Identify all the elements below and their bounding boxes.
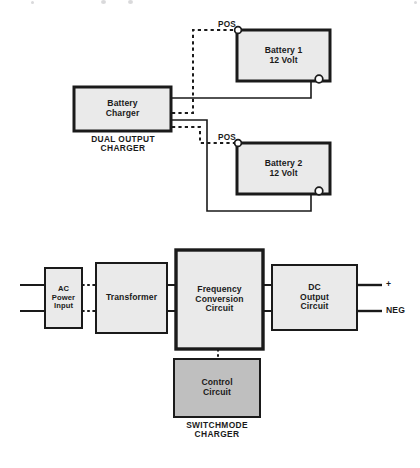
control-circuit-box [174,359,260,417]
frequency-conversion-circuit-box [176,250,263,349]
battery-1-negative-terminal [315,75,323,83]
transformer-box [96,263,167,333]
battery-1-box [237,30,330,81]
battery-2-negative-terminal [315,187,323,195]
diagram-canvas [0,0,420,468]
battery-2-positive-terminal [235,140,242,147]
diagram-page: Battery Charger DUAL OUTPUT CHARGER Batt… [0,0,420,468]
battery-1-positive-terminal [235,27,242,34]
wire-dashed-charger-to-battery1-pos [172,30,236,113]
ac-power-input-box [45,268,82,328]
battery-charger-box [74,87,171,131]
wire-dashed-charger-to-battery2-pos [172,127,236,143]
battery-2-box [237,143,330,194]
dc-output-circuit-box [272,265,357,330]
